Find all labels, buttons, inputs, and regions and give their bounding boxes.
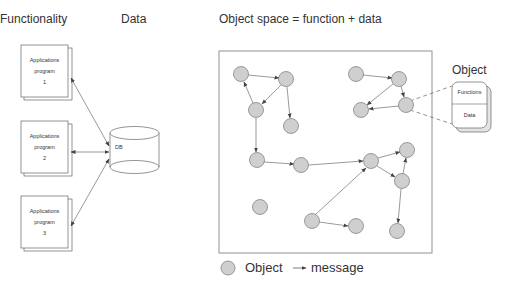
object-card-data: Data	[452, 112, 487, 118]
program-1-line3: 1	[21, 77, 68, 88]
program-2-label: Applications program 2	[21, 131, 68, 164]
object-node	[392, 72, 407, 87]
object-node	[399, 98, 414, 113]
program-2-line1: Applications	[21, 131, 68, 142]
object-node	[390, 224, 405, 239]
program-3-line2: program	[21, 217, 68, 228]
object-node	[354, 103, 369, 118]
program-1-label: Applications program 1	[21, 55, 68, 88]
object-node	[279, 72, 294, 87]
object-node	[250, 153, 265, 168]
program-3-line3: 3	[21, 228, 68, 239]
object-node	[253, 200, 268, 215]
connector-program1-db	[71, 78, 109, 146]
object-node	[400, 143, 415, 158]
object-node	[284, 119, 299, 134]
program-2-line3: 2	[21, 153, 68, 164]
object-node	[305, 214, 320, 229]
object-node	[249, 103, 264, 118]
legend-message-label: message	[311, 260, 364, 275]
database-cylinder	[110, 127, 159, 174]
object-node	[395, 174, 410, 189]
diagram-canvas	[0, 0, 507, 284]
program-1-line1: Applications	[21, 55, 68, 66]
legend-object-label: Object	[245, 260, 283, 275]
object-node	[294, 158, 309, 173]
connector-program3-db	[71, 159, 109, 226]
object-node	[349, 67, 364, 82]
object-node	[364, 154, 379, 169]
legend-object-icon	[221, 261, 235, 275]
program-3-label: Applications program 3	[21, 206, 68, 239]
program-3-line1: Applications	[21, 206, 68, 217]
object-node	[234, 67, 249, 82]
object-node	[349, 219, 364, 234]
program-2-line2: program	[21, 142, 68, 153]
program-1-line2: program	[21, 66, 68, 77]
database-label: DB	[115, 144, 123, 150]
object-card-functions: Functions	[452, 89, 487, 95]
